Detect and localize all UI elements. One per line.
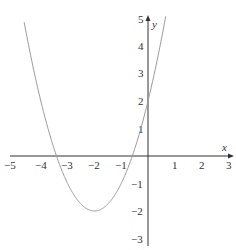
x-tick-label: −4 <box>35 159 47 171</box>
y-tick-labels: 5 4 3 2 1 −1 −2 −3 <box>131 13 144 245</box>
y-axis-label: y <box>151 18 157 30</box>
x-axis-arrow-icon <box>228 154 234 159</box>
y-axis: y <box>146 15 158 246</box>
x-tick-label: −1 <box>115 159 127 171</box>
x-tick-label: 3 <box>226 159 232 171</box>
x-tick-label: −5 <box>4 159 16 171</box>
chart: x y −5 −4 −3 −2 −1 1 2 3 5 4 3 2 1 −1 −2… <box>0 0 236 250</box>
y-tick-label: 4 <box>138 40 144 52</box>
parabola-curve <box>24 16 166 211</box>
x-tick-label: 2 <box>199 159 205 171</box>
x-tick-labels: −5 −4 −3 −2 −1 1 2 3 <box>4 159 232 171</box>
x-tick-label: −3 <box>61 159 73 171</box>
y-tick-label: −1 <box>131 178 143 190</box>
y-tick-label: −2 <box>131 205 143 217</box>
y-tick-label: 2 <box>138 95 144 107</box>
y-axis-arrow-icon <box>146 15 151 21</box>
y-tick-label: 3 <box>138 67 144 79</box>
y-tick-label: −3 <box>131 233 143 245</box>
y-tick-label: 5 <box>138 13 144 25</box>
x-axis-label: x <box>221 141 227 153</box>
x-tick-label: −2 <box>88 159 100 171</box>
x-axis: x <box>10 141 234 159</box>
x-tick-label: 1 <box>172 159 178 171</box>
